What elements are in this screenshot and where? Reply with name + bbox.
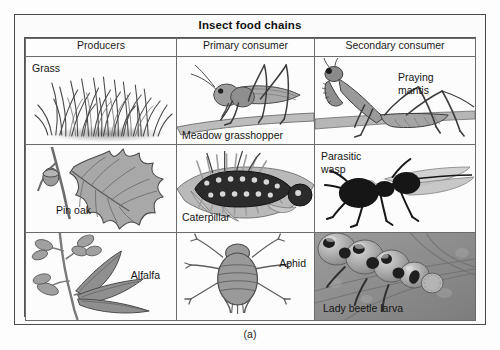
cell-label-alfalfa: Alfalfa — [131, 269, 160, 282]
cell-label-meadow-grasshopper: Meadow grasshopper — [182, 129, 283, 142]
cell-lady-beetle-larva: Lady beetle larva — [315, 233, 476, 321]
cell-label-pin-oak: Pin oak — [56, 204, 91, 217]
figure-frame: Insect food chains Producers Primary con… — [14, 14, 486, 325]
table-row: Pin oak — [26, 145, 476, 233]
cell-alfalfa: Alfalfa — [26, 233, 177, 321]
table-row: Alfalfa — [26, 233, 476, 321]
aphid-illustration — [177, 233, 314, 320]
praying-mantis-illustration — [315, 57, 475, 144]
column-header-primary-consumer: Primary consumer — [177, 39, 315, 57]
figure-caption: (a) — [0, 328, 500, 340]
cell-caterpillar: Caterpillar — [177, 145, 315, 233]
food-chain-table: Producers Primary consumer Secondary con… — [24, 37, 476, 317]
cell-praying-mantis: Praying mantis — [315, 57, 476, 145]
column-header-producers: Producers — [26, 39, 177, 57]
cell-aphid: Aphid — [177, 233, 315, 321]
cell-label-caterpillar: Caterpillar — [182, 211, 230, 224]
pin-oak-leaf-illustration — [26, 145, 176, 232]
column-header-secondary-consumer: Secondary consumer — [315, 39, 476, 57]
cell-label-praying-mantis: Praying mantis — [398, 71, 434, 96]
cell-label-parasitic-wasp: Parasitic wasp — [321, 150, 361, 175]
cell-parasitic-wasp: Parasitic wasp — [315, 145, 476, 233]
cell-grass: Grass — [26, 57, 177, 145]
cell-label-lady-beetle-larva: Lady beetle larva — [323, 302, 403, 315]
cell-meadow-grasshopper: Meadow grasshopper — [177, 57, 315, 145]
figure-page: Insect food chains Producers Primary con… — [0, 0, 500, 350]
cell-pin-oak: Pin oak — [26, 145, 177, 233]
table-header-row: Producers Primary consumer Secondary con… — [26, 39, 476, 57]
cell-label-aphid: Aphid — [279, 257, 306, 270]
cell-label-grass: Grass — [32, 62, 60, 75]
figure-title: Insect food chains — [15, 15, 485, 35]
table-row: Grass — [26, 57, 476, 145]
